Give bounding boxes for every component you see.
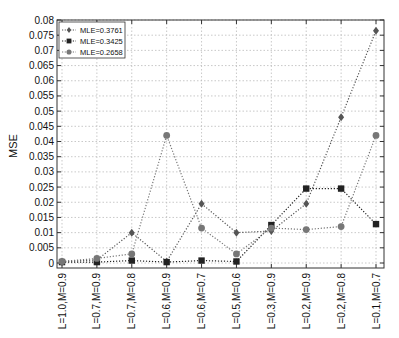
legend-label: MLE=0.3761 (80, 26, 123, 35)
square-marker-icon (129, 257, 135, 263)
y-tick-label: 0.05 (35, 106, 55, 117)
y-tick-label: 0.07 (35, 45, 55, 56)
x-tick-label: L=1.0,M=0.9 (57, 273, 68, 330)
circle-marker-icon (303, 226, 310, 233)
x-tick-label: L=0.1,M=0.7 (371, 273, 382, 330)
y-tick-label: 0 (48, 258, 54, 269)
y-tick-label: 0.08 (35, 15, 55, 26)
mse-line-chart: 00.0050.010.0150.020.0250.030.0350.040.0… (0, 0, 399, 338)
square-marker-icon (303, 185, 309, 191)
circle-marker-icon (128, 250, 135, 257)
y-tick-label: 0.025 (29, 182, 54, 193)
y-axis-label: MSE (7, 134, 19, 158)
y-tick-label: 0.015 (29, 212, 54, 223)
data-series (59, 27, 380, 266)
y-tick-label: 0.04 (35, 136, 55, 147)
diamond-marker-icon (303, 200, 309, 208)
diamond-marker-icon (129, 229, 135, 237)
circle-marker-icon (268, 225, 275, 232)
circle-marker-icon (233, 250, 240, 257)
series-line (62, 135, 376, 261)
x-tick-label: L=0.6,M=0.9 (161, 273, 172, 330)
diamond-marker-icon (233, 229, 239, 237)
square-marker-icon (67, 39, 72, 44)
square-marker-icon (338, 185, 344, 191)
y-tick-label: 0.06 (35, 75, 55, 86)
x-tick-label: L=0.7,M=0.8 (126, 273, 137, 330)
circle-marker-icon (198, 225, 205, 232)
x-tick-label: L=0.5,M=0.6 (231, 273, 242, 330)
y-tick-label: 0.02 (35, 197, 55, 208)
square-marker-icon (163, 259, 169, 265)
y-tick-label: 0.01 (35, 227, 55, 238)
y-tick-label: 0.03 (35, 166, 55, 177)
x-tick-label: L=0.2,M=0.8 (336, 273, 347, 330)
diamond-marker-icon (338, 113, 344, 121)
square-marker-icon (373, 221, 379, 227)
circle-marker-icon (93, 255, 100, 262)
legend-label: MLE=0.2658 (80, 48, 123, 57)
legend-label: MLE=0.3425 (80, 37, 123, 46)
diamond-marker-icon (373, 27, 379, 35)
circle-marker-icon (163, 132, 170, 139)
y-tick-label: 0.065 (29, 60, 54, 71)
x-axis-ticks: L=1.0,M=0.9L=0.7,M=0.9L=0.7,M=0.8L=0.6,M… (57, 20, 382, 329)
series-diamond (59, 27, 379, 266)
circle-marker-icon (338, 223, 345, 230)
series-line (62, 189, 376, 263)
x-tick-label: L=0.2,M=0.9 (301, 273, 312, 330)
series-square (59, 185, 379, 265)
y-tick-label: 0.005 (29, 242, 54, 253)
circle-marker-icon (66, 49, 71, 54)
y-tick-label: 0.045 (29, 121, 54, 132)
x-tick-label: L=0.3,M=0.9 (266, 273, 277, 330)
circle-marker-icon (59, 258, 66, 265)
square-marker-icon (198, 257, 204, 263)
x-tick-label: L=0.7,M=0.9 (91, 273, 102, 330)
y-tick-label: 0.075 (29, 30, 54, 41)
y-tick-label: 0.035 (29, 151, 54, 162)
circle-marker-icon (373, 132, 380, 139)
series-circle (59, 132, 380, 265)
legend: MLE=0.3761MLE=0.3425MLE=0.2658 (59, 22, 125, 58)
y-tick-label: 0.055 (29, 90, 54, 101)
x-tick-label: L=0.6,M=0.7 (196, 273, 207, 330)
diamond-marker-icon (199, 200, 205, 208)
square-marker-icon (233, 258, 239, 264)
